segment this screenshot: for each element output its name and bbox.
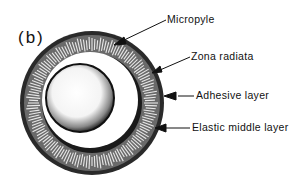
label-micropyle: Micropyle [167, 13, 215, 25]
panel-label: (b) [18, 28, 45, 48]
label-zona-radiata: Zona radiata [191, 50, 254, 62]
label-elastic-middle-layer: Elastic middle layer [192, 121, 288, 133]
label-adhesive-layer: Adhesive layer [196, 89, 269, 101]
ovum [46, 64, 114, 132]
